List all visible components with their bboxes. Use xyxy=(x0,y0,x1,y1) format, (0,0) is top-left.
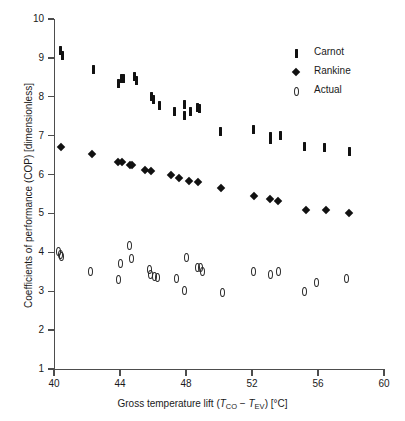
data-point-actual xyxy=(184,253,189,262)
x-axis-symbol-tco-sub: CO xyxy=(226,402,237,411)
x-axis-tick xyxy=(119,370,120,376)
data-point-carnot xyxy=(92,65,95,74)
x-axis-tick xyxy=(53,370,54,376)
data-point-carnot xyxy=(252,125,255,134)
x-axis-title-minus: − xyxy=(237,398,248,409)
x-axis-tick xyxy=(383,370,384,376)
data-point-actual xyxy=(116,275,121,284)
legend-label: Actual xyxy=(314,84,342,95)
data-point-actual xyxy=(88,267,93,276)
data-point-actual xyxy=(220,288,225,297)
chart-legend: CarnotRankineActual xyxy=(292,44,392,101)
data-point-carnot xyxy=(279,131,282,140)
x-axis-tick-label: 48 xyxy=(171,379,201,389)
open-ellipse-icon xyxy=(294,87,299,96)
data-point-actual xyxy=(200,267,205,276)
y-axis-tick-label: 1 xyxy=(22,364,44,374)
x-axis-tick-label: 60 xyxy=(369,379,399,389)
x-axis-tick-label: 40 xyxy=(39,379,69,389)
chart-figure: 12345678910 404448525660 Gross temperatu… xyxy=(0,0,405,421)
data-point-actual xyxy=(129,254,134,263)
data-point-carnot xyxy=(158,101,161,110)
legend-label: Carnot xyxy=(314,46,344,57)
data-point-carnot xyxy=(189,107,192,116)
data-point-actual xyxy=(314,278,319,287)
data-point-actual xyxy=(182,286,187,295)
data-point-actual xyxy=(344,274,349,283)
data-point-carnot xyxy=(219,127,222,136)
y-axis-tick-label: 10 xyxy=(22,14,44,24)
legend-item-rankine: Rankine xyxy=(292,63,392,82)
diamond-icon xyxy=(292,68,300,76)
vertical-bar-icon xyxy=(295,49,298,58)
data-point-carnot xyxy=(122,74,125,83)
x-axis-title-suffix: ) [°C] xyxy=(265,398,288,409)
x-axis-tick xyxy=(317,370,318,376)
data-point-carnot xyxy=(173,107,176,116)
data-point-carnot xyxy=(269,135,272,144)
x-axis-symbol-tev: T xyxy=(249,398,255,409)
data-point-carnot xyxy=(303,142,306,151)
x-axis-symbol-tev-sub: EV xyxy=(255,402,265,411)
data-point-carnot xyxy=(198,104,201,113)
data-point-carnot xyxy=(183,100,186,109)
data-point-actual xyxy=(268,270,273,279)
x-axis-title: Gross temperature lift (TCO − TEV) [°C] xyxy=(0,398,405,409)
x-axis-symbol-tco: T xyxy=(220,398,226,409)
data-point-carnot xyxy=(61,51,64,60)
legend-item-carnot: Carnot xyxy=(292,44,392,63)
y-axis-title: Coefficients of performance (COP) [dimen… xyxy=(23,31,34,361)
data-point-carnot xyxy=(135,76,138,85)
legend-label: Rankine xyxy=(314,65,351,76)
data-point-carnot xyxy=(152,95,155,104)
x-axis-line xyxy=(54,369,385,370)
x-axis-tick xyxy=(185,370,186,376)
x-axis-tick-label: 44 xyxy=(105,379,135,389)
x-axis-title-prefix: Gross temperature lift ( xyxy=(117,398,219,409)
data-point-carnot xyxy=(183,111,186,120)
data-point-actual xyxy=(118,259,123,268)
x-axis-tick-label: 52 xyxy=(237,379,267,389)
x-axis-tick xyxy=(251,370,252,376)
legend-item-actual: Actual xyxy=(292,82,392,101)
data-point-carnot xyxy=(323,143,326,152)
data-point-carnot xyxy=(348,147,351,156)
x-axis-tick-label: 56 xyxy=(303,379,333,389)
data-point-actual xyxy=(174,274,179,283)
data-point-actual xyxy=(59,252,64,261)
